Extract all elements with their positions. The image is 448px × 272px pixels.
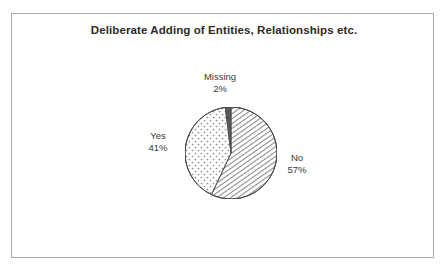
pie-label-no: No 57%	[272, 152, 322, 176]
scan-artifact-band	[0, 0, 448, 11]
pie-label-missing-percent: 2%	[178, 83, 262, 95]
pie-label-no-percent: 57%	[272, 164, 322, 176]
pie-label-yes-percent: 41%	[132, 142, 184, 154]
chart-canvas: Deliberate Adding of Entities, Relations…	[0, 0, 448, 272]
pie-chart-graphic	[185, 107, 277, 199]
pie-label-missing: Missing 2%	[178, 71, 262, 95]
pie-svg	[185, 107, 277, 199]
pie-label-missing-name: Missing	[178, 71, 262, 83]
pie-label-yes-name: Yes	[132, 130, 184, 142]
pie-label-yes: Yes 41%	[132, 130, 184, 154]
pie-label-no-name: No	[272, 152, 322, 164]
chart-title: Deliberate Adding of Entities, Relations…	[0, 24, 448, 36]
